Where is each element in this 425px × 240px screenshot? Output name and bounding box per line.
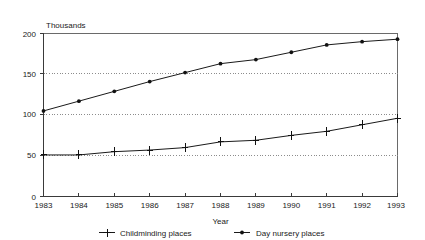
y-tick-label-150: 150 — [23, 70, 37, 79]
x-tick-label-1987: 1987 — [176, 201, 194, 210]
x-tick-label-1992: 1992 — [353, 201, 371, 210]
data-point — [148, 80, 152, 84]
x-axis-title: Year — [212, 217, 229, 226]
data-point — [77, 99, 81, 103]
data-point — [42, 109, 46, 113]
x-tick-label-1990: 1990 — [282, 201, 300, 210]
y-tick-label-100: 100 — [23, 110, 37, 119]
legend-label-childminding: Childminding places — [120, 229, 192, 238]
data-point — [219, 62, 223, 66]
x-tick-label-1989: 1989 — [247, 201, 265, 210]
chart-canvas: 200 150 100 50 0 Thousands 1983 1984 198… — [0, 0, 425, 240]
series-layer — [41, 37, 401, 159]
series-line — [44, 39, 398, 111]
x-tick-label-1985: 1985 — [105, 201, 123, 210]
legend: Childminding places Day nursery places — [99, 229, 324, 238]
series-day-nursery-places — [42, 37, 400, 113]
data-point — [254, 58, 258, 62]
line-chart: 200 150 100 50 0 Thousands 1983 1984 198… — [0, 0, 425, 240]
data-point — [183, 71, 187, 75]
x-tick-label-1983: 1983 — [35, 201, 53, 210]
x-tick-label-1988: 1988 — [212, 201, 230, 210]
x-tick-label-1991: 1991 — [318, 201, 336, 210]
legend-marker-dot — [240, 231, 244, 235]
y-axis-unit-label: Thousands — [46, 21, 86, 30]
series-line — [44, 118, 398, 155]
y-tick-label-200: 200 — [23, 30, 37, 39]
data-point — [289, 50, 293, 54]
legend-label-daynursery: Day nursery places — [256, 229, 324, 238]
series-childminding-places — [41, 114, 401, 160]
data-point — [112, 89, 116, 93]
x-tick-label-1993: 1993 — [387, 201, 405, 210]
data-point — [396, 37, 400, 41]
data-point — [360, 40, 364, 44]
data-point — [325, 43, 329, 47]
x-tick-label-1984: 1984 — [70, 201, 88, 210]
y-tick-label-50: 50 — [27, 151, 36, 160]
x-tick-label-1986: 1986 — [141, 201, 159, 210]
